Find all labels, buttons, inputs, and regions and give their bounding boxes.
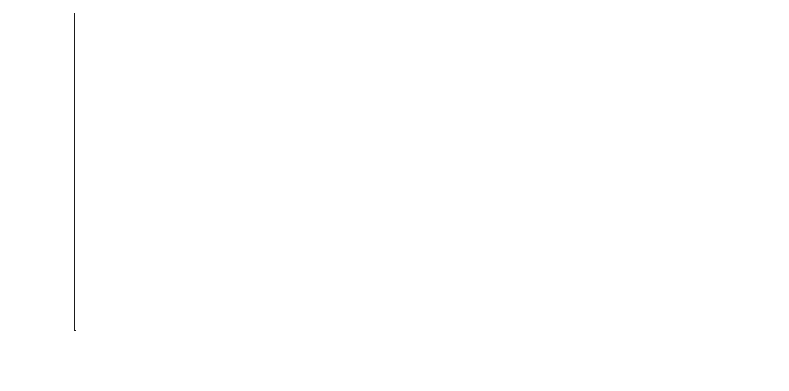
bar-chart — [0, 0, 789, 391]
y-axis-tick-labels — [28, 0, 72, 391]
y-axis-line — [74, 13, 75, 331]
x-axis-line — [74, 330, 76, 331]
